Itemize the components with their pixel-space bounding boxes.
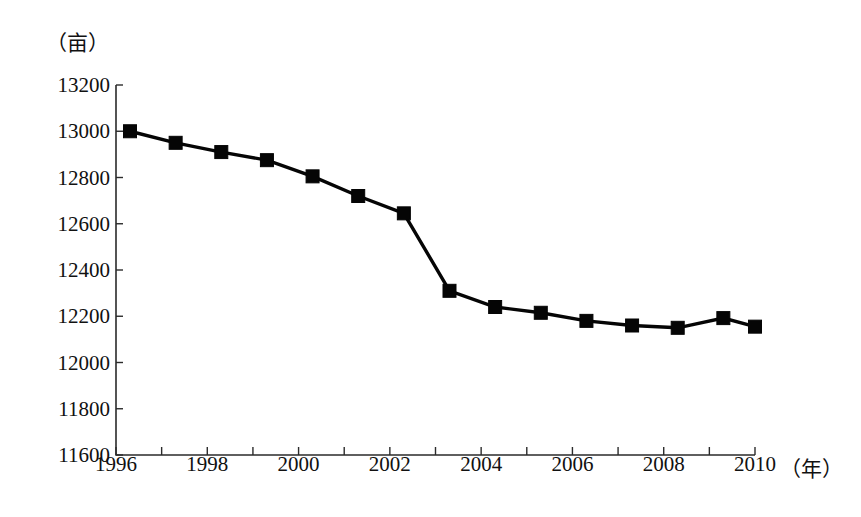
data-point-marker [717,312,730,325]
x-tick-label: 1996 [95,452,137,477]
data-point-marker [534,306,547,319]
data-point-marker [352,190,365,203]
x-axis-unit-label: （年） [780,452,843,482]
data-point-marker [397,207,410,220]
data-point-marker [443,284,456,297]
data-point-marker [169,136,182,149]
data-point-marker [124,125,137,138]
series-line-耕地面积 [130,131,755,328]
x-tick-label: 2002 [369,452,411,477]
x-tick-label: 2006 [551,452,593,477]
data-point-marker [671,321,684,334]
x-tick-label: 2000 [278,452,320,477]
x-tick-label: 2010 [734,452,776,477]
chart-plot-area [0,0,861,517]
data-point-marker [580,314,593,327]
series-markers [124,125,762,335]
data-point-marker [489,301,502,314]
data-point-marker [306,170,319,183]
x-tick-label: 1998 [186,452,228,477]
x-tick-label: 2008 [643,452,685,477]
data-point-marker [626,319,639,332]
data-point-marker [260,154,273,167]
x-tick-label: 2004 [460,452,502,477]
data-point-marker [749,320,762,333]
y-axis-tick-marks [116,85,123,455]
line-chart: （亩） 132001300012800126001240012200120001… [0,0,861,517]
data-point-marker [215,146,228,159]
data-series-group [124,125,762,335]
